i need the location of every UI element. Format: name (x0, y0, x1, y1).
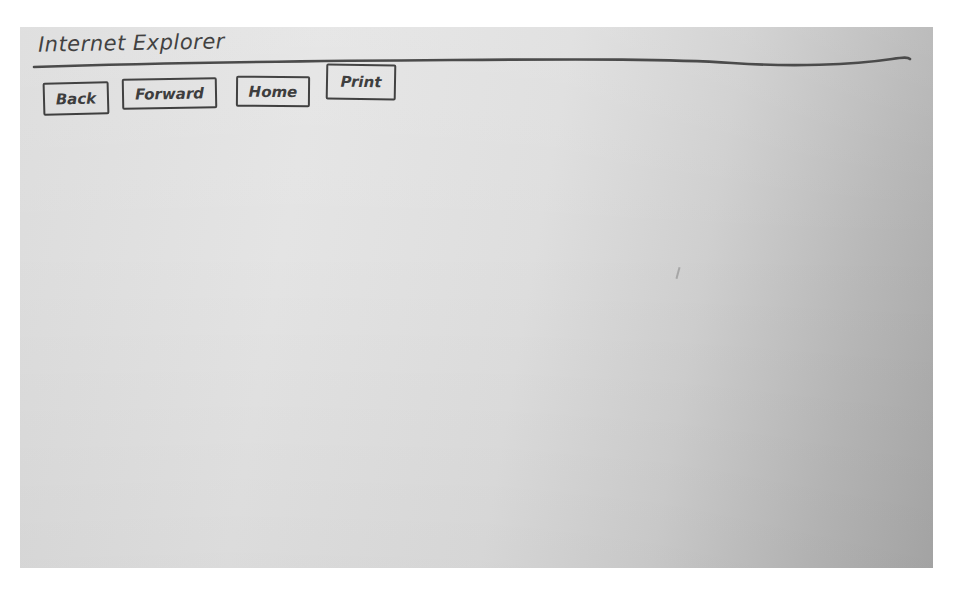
stray-pencil-mark (675, 267, 680, 279)
toolbar: Back Forward Home Print (20, 27, 933, 127)
sketch-paper: Internet Explorer Back Forward Home Prin… (20, 27, 933, 568)
print-button[interactable]: Print (326, 63, 397, 100)
home-button[interactable]: Home (236, 76, 310, 108)
back-button[interactable]: Back (43, 81, 110, 116)
forward-button[interactable]: Forward (122, 77, 218, 110)
page-content-area (20, 127, 933, 568)
